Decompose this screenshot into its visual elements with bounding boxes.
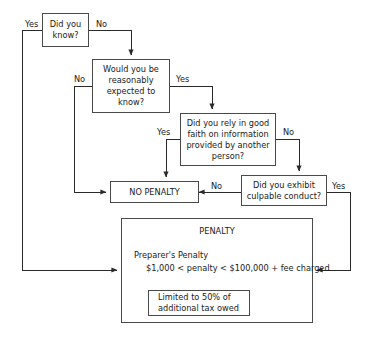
node-culpable-conduct[interactable]: Did you exhibit culpable conduct? — [241, 175, 327, 206]
node-limited-label: Limited to 50% of additional tax owed — [158, 292, 239, 314]
node-no-penalty-label: NO PENALTY — [129, 187, 179, 198]
edge-label-goodfaith-no: No — [283, 127, 294, 137]
node-culpable-conduct-label: Did you exhibit culpable conduct? — [247, 180, 321, 202]
edge-label-culpable-yes: Yes — [332, 181, 345, 191]
penalty-group-title: PENALTY — [122, 226, 312, 236]
edge-label-expected-yes: Yes — [176, 74, 189, 84]
edge-expected-yes — [170, 86, 212, 109]
edge-label-culpable-no: No — [211, 181, 222, 191]
node-good-faith[interactable]: Did you rely in good faith on informatio… — [180, 113, 276, 166]
edge-goodfaith-yes — [166, 139, 180, 177]
edge-goodfaith-no — [276, 139, 299, 171]
node-did-you-know[interactable]: Did you know? — [42, 13, 89, 47]
penalty-preparer-label: Preparer's Penalty — [134, 250, 208, 260]
node-reasonably-expected-label: Would you be reasonably expected to know… — [103, 64, 159, 108]
node-limited-to-50-percent[interactable]: Limited to 50% of additional tax owed — [148, 290, 250, 316]
penalty-range-value: $1,000 < penalty < $100,000 + fee charge… — [146, 263, 330, 273]
edge-know-no — [89, 30, 131, 55]
flowchart-diagram: Did you know? Would you be reasonably ex… — [0, 0, 366, 341]
edge-label-goodfaith-yes: Yes — [157, 127, 170, 137]
node-reasonably-expected[interactable]: Would you be reasonably expected to know… — [92, 59, 170, 113]
edge-label-know-no: No — [96, 19, 107, 29]
node-no-penalty[interactable]: NO PENALTY — [110, 181, 199, 203]
node-did-you-know-label: Did you know? — [50, 19, 81, 41]
edge-label-know-yes: Yes — [25, 19, 38, 29]
edge-label-expected-no: No — [74, 74, 85, 84]
node-good-faith-label: Did you rely in good faith on informatio… — [186, 118, 269, 162]
